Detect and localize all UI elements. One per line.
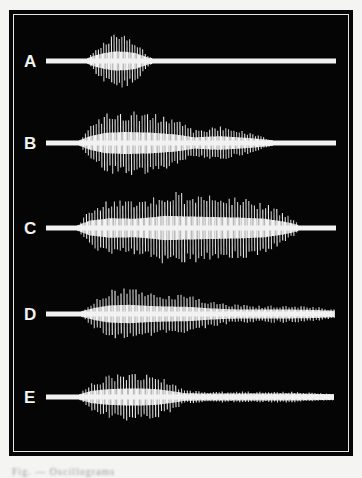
trace-b: B [24, 112, 336, 176]
trace-label: C [24, 219, 36, 238]
trace-label: A [24, 52, 36, 71]
trace-d: D [24, 289, 334, 339]
trace-e: E [24, 374, 334, 420]
figure-caption: Fig. — Oscillograms [12, 466, 352, 478]
trace-label: D [24, 305, 36, 324]
trace-a: A [24, 35, 336, 88]
trace-c: C [24, 192, 336, 263]
trace-label: B [24, 134, 36, 153]
trace-label: E [24, 388, 35, 407]
